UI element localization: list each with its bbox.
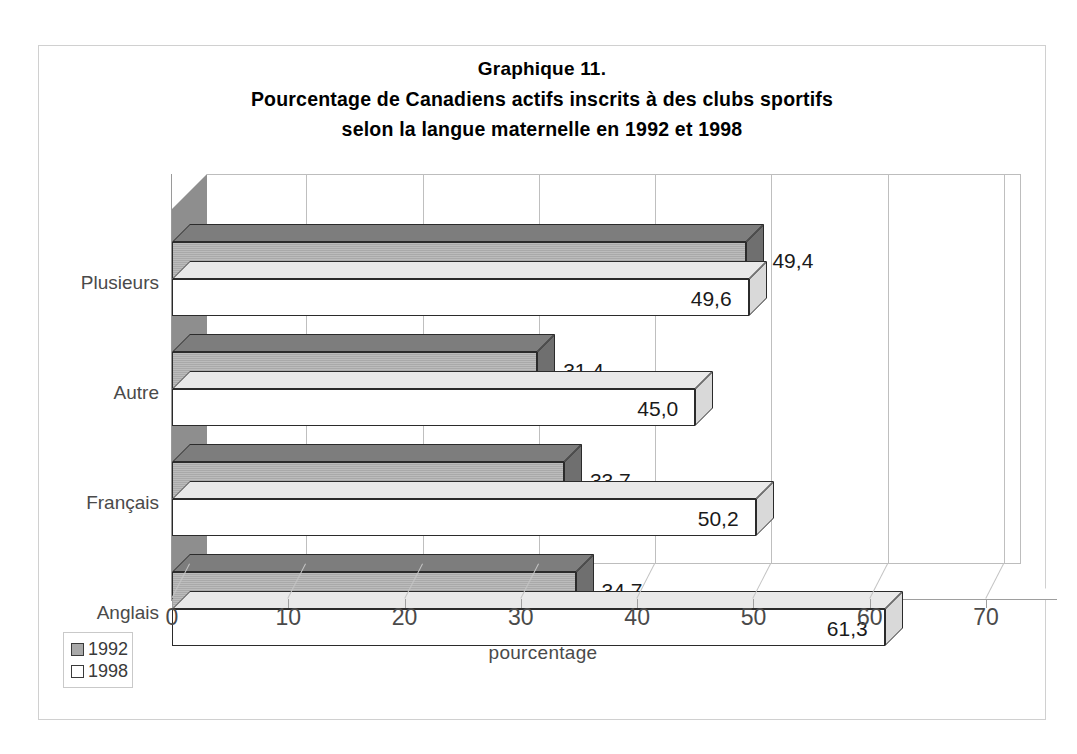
legend-item-1992[interactable]: 1992 [71,638,125,660]
value-label-plusieurs-1998: 49,6 [691,288,732,309]
category-label-français: Français [39,493,159,512]
tick-label-20: 20 [392,606,418,629]
bar-top-face [172,334,555,352]
legend-label-1992: 1992 [88,640,128,658]
chart-legend: 1992 1998 [63,632,133,688]
tick-label-0: 0 [166,606,179,629]
figure-frame: Graphique 11. Pourcentage de Canadiens a… [38,45,1046,720]
gridline-70 [1004,174,1005,564]
bar-français-1998[interactable] [172,499,756,536]
legend-item-1998[interactable]: 1998 [71,660,125,682]
gridline-60 [888,174,889,564]
tick-label-40: 40 [624,606,650,629]
bar-top-face [172,481,774,499]
legend-swatch-1992 [71,643,84,656]
bar-autre-1998[interactable] [172,389,695,426]
tick-label-60: 60 [857,606,883,629]
category-label-anglais: Anglais [39,603,159,622]
tick-label-70: 70 [973,606,999,629]
value-label-autre-1998: 45,0 [637,398,678,419]
bar-plusieurs-1998[interactable] [172,279,749,316]
bar-top-face [172,554,594,572]
bar-top-face [172,224,764,242]
category-label-autre: Autre [39,383,159,402]
x-axis-title: pourcentage [39,642,1047,664]
bar-top-face [172,371,713,389]
bar-top-face [172,444,582,462]
bar-top-face [172,261,767,279]
value-label-plusieurs-1992: 49,4 [772,250,813,271]
tick-label-30: 30 [508,606,534,629]
legend-swatch-1998 [71,665,84,678]
legend-label-1998: 1998 [88,662,128,680]
value-label-français-1998: 50,2 [698,508,739,529]
category-label-plusieurs: Plusieurs [39,273,159,292]
plot-area: 49,449,631,445,033,750,234,761,3 Plusieu… [39,46,1047,721]
tick-label-10: 10 [275,606,301,629]
tick-label-50: 50 [741,606,767,629]
